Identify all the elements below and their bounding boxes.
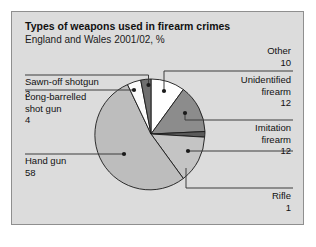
callout-other: Other 10 [267, 45, 291, 68]
marker-dot-imitation-firearm [186, 149, 190, 153]
callout-unidentified-value: 12 [241, 97, 291, 109]
callout-long-barrelled-line1: Long-barrelled [25, 91, 86, 103]
marker-dot-sawn-off-shotgun [146, 83, 150, 87]
callout-imitation-firearm: Imitation firearm 12 [255, 122, 291, 157]
chart-panel: Types of weapons used in firearm crimes … [11, 11, 304, 225]
marker-dot-hand-gun [122, 152, 126, 156]
callout-rifle-label: Rifle [272, 190, 291, 202]
callout-unidentified-firearm: Unidentified firearm 12 [241, 74, 291, 109]
callout-rifle: Rifle 1 [272, 190, 291, 213]
callout-other-value: 10 [267, 57, 291, 69]
callout-rifle-value: 1 [272, 202, 291, 214]
callout-long-barrelled-line2: shot gun [25, 103, 86, 115]
callout-unidentified-line2: firearm [241, 86, 291, 98]
callout-long-barrelled-shot-gun: Long-barrelled shot gun 4 [25, 91, 86, 126]
marker-dot-long-barrelled [132, 88, 136, 92]
callout-long-barrelled-value: 4 [25, 114, 86, 126]
pie-slices [95, 79, 205, 190]
marker-dot-other [162, 89, 166, 93]
callout-imitation-line1: Imitation [255, 122, 291, 134]
callout-other-label: Other [267, 45, 291, 57]
callout-sawn-off-shotgun-label: Sawn-off shotgun [25, 76, 99, 88]
leader-line-rifle [186, 168, 293, 188]
callout-hand-gun: Hand gun 58 [25, 155, 66, 178]
callout-imitation-line2: firearm [255, 134, 291, 146]
marker-dot-unidentified-firearm [183, 111, 187, 115]
callout-imitation-value: 12 [255, 145, 291, 157]
callout-hand-gun-label: Hand gun [25, 155, 66, 167]
callout-unidentified-line1: Unidentified [241, 74, 291, 86]
callout-hand-gun-value: 58 [25, 167, 66, 179]
